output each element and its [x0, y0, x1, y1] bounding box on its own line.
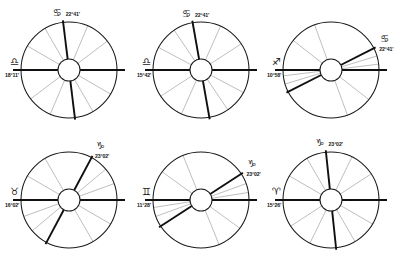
wheel-svg: ♋22°41'♎18°11'	[0, 0, 133, 130]
midheaven-axis-line	[332, 211, 336, 250]
asc-degree-label: 15°42'	[137, 72, 151, 78]
house-cusp-line	[75, 80, 94, 112]
house-cusp-line	[45, 28, 64, 60]
house-cusp-line	[293, 40, 322, 63]
house-cusp-line	[31, 77, 61, 99]
mc-degree-label: 23°02'	[246, 171, 260, 177]
asc-degree-label: 11°28'	[137, 202, 151, 208]
wheel-chart-6: ♑23°02'♈15°26'	[262, 130, 395, 260]
mc-sign-glyph: ♑	[96, 140, 105, 151]
mc-degree-label: 22°41'	[379, 46, 393, 52]
wheel-hub	[190, 59, 212, 81]
house-cusp-line	[212, 192, 249, 198]
mc-sign-glyph: ♋	[380, 33, 389, 44]
wheel-chart-2: ♋22°41'♎15°42'	[132, 0, 265, 130]
house-cusp-line	[310, 210, 326, 243]
house-cusp-line	[210, 44, 241, 64]
wheel-svg: ♑23°02'♈15°26'	[262, 130, 395, 260]
house-cusp-line	[78, 41, 108, 63]
house-cusp-line	[291, 206, 322, 226]
asc-degree-label: 18°11'	[5, 72, 19, 78]
house-cusp-line	[174, 30, 195, 61]
wheel-chart-5: ♑23°02'♊11°28'	[132, 130, 265, 260]
mc-degree-label: 23°02'	[329, 141, 343, 147]
mc-degree-label: 22°41'	[66, 11, 80, 17]
midheaven-axis-line	[63, 20, 68, 59]
house-cusp-line	[315, 25, 328, 60]
mc-sign-glyph: ♋	[53, 7, 62, 18]
asc-sign-glyph: ♐	[272, 56, 281, 67]
midheaven-axis-line	[341, 47, 376, 65]
house-cusp-line	[24, 204, 59, 217]
asc-sign-glyph: ♊	[142, 186, 151, 197]
wheel-svg: ♋22°41'♐10°58'	[262, 0, 395, 130]
asc-degree-label: 15°26'	[267, 202, 281, 208]
house-cusp-line	[77, 169, 105, 193]
house-cusp-line	[340, 77, 369, 100]
wheel-hub	[320, 189, 342, 211]
house-cusp-line	[161, 76, 192, 96]
midheaven-axis-line	[70, 81, 75, 120]
house-cusp-line	[73, 26, 87, 60]
house-cusp-line	[205, 210, 219, 244]
house-cusp-line	[337, 210, 356, 242]
house-cusp-line	[183, 155, 197, 189]
house-cusp-line	[154, 202, 191, 208]
wheel-hub	[190, 189, 212, 211]
mc-degree-label: 23°02'	[95, 153, 109, 159]
asc-degree-label: 16°02'	[5, 202, 19, 208]
mc-sign-glyph: ♋	[182, 8, 191, 19]
house-cusp-line	[75, 210, 94, 242]
house-cusp-line	[79, 184, 114, 197]
asc-sign-glyph: ♎	[10, 56, 19, 67]
house-cusp-line	[207, 79, 228, 110]
midheaven-axis-line	[326, 150, 330, 189]
house-cusp-line	[205, 26, 220, 60]
asc-sign-glyph: ♉	[10, 186, 19, 197]
asc-sign-glyph: ♈	[272, 186, 281, 197]
house-cusp-line	[211, 75, 244, 92]
house-cusp-line	[341, 206, 373, 225]
midheaven-axis-line	[286, 75, 321, 93]
house-cusp-line	[159, 47, 192, 64]
wheel-svg: ♑23°02'♊11°28'	[132, 130, 265, 260]
midheaven-axis-line	[192, 21, 199, 59]
wheel-hub	[320, 59, 342, 81]
wheel-chart-figure: ♋22°41'♎18°11'♋22°41'♎15°42'♋22°41'♐10°5…	[0, 0, 398, 260]
wheel-svg: ♋22°41'♎15°42'	[132, 0, 265, 130]
house-cusp-line	[336, 157, 352, 190]
house-cusp-line	[27, 176, 59, 195]
wheel-hub	[58, 59, 80, 81]
house-cusp-line	[27, 46, 59, 65]
house-cusp-line	[79, 76, 111, 95]
wheel-svg: ♑23°02'♉16°02'	[0, 130, 133, 260]
house-cusp-line	[32, 207, 60, 231]
house-cusp-line	[79, 206, 111, 225]
house-cusp-line	[162, 172, 192, 194]
mc-degree-label: 22°41'	[195, 12, 209, 18]
wheel-chart-3: ♋22°41'♐10°58'	[262, 0, 395, 130]
midheaven-axis-line	[203, 81, 210, 119]
wheel-hub	[58, 189, 80, 211]
house-cusp-line	[181, 80, 196, 114]
house-cusp-line	[340, 174, 371, 194]
house-cusp-line	[307, 158, 326, 190]
midheaven-axis-line	[74, 156, 92, 190]
asc-sign-glyph: ♎	[142, 56, 151, 67]
wheel-chart-4: ♑23°02'♉16°02'	[0, 130, 133, 260]
mc-sign-glyph: ♑	[247, 158, 256, 169]
house-cusp-line	[50, 80, 64, 114]
asc-degree-label: 10°58'	[267, 72, 281, 78]
house-cusp-line	[289, 176, 321, 195]
house-cusp-line	[335, 80, 348, 115]
house-cusp-line	[45, 158, 64, 190]
mc-sign-glyph: ♑	[316, 137, 325, 148]
house-cusp-line	[210, 206, 240, 228]
midheaven-axis-line	[46, 210, 64, 244]
wheel-chart-1: ♋22°41'♎18°11'	[0, 0, 133, 130]
